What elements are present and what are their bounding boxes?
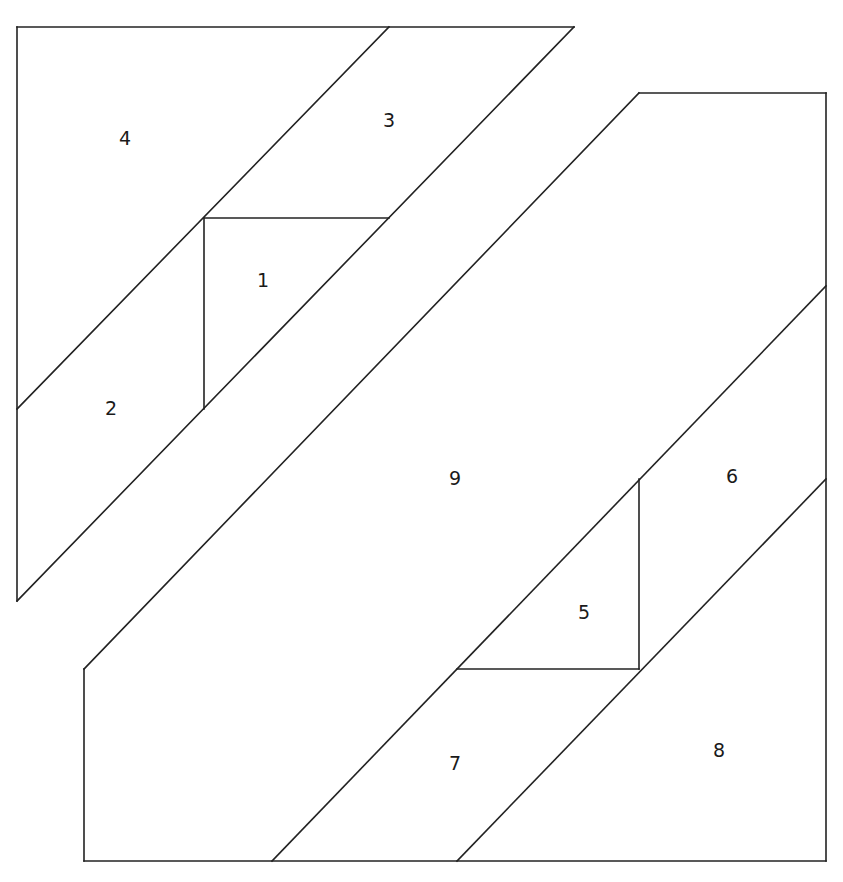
- paper-piecing-diagram: 123456789: [0, 0, 843, 882]
- pieces-layer: [17, 27, 826, 861]
- piece-label-8: 8: [713, 739, 725, 761]
- piece-label-9: 9: [449, 467, 461, 489]
- piece-label-5: 5: [578, 601, 590, 623]
- piece-label-2: 2: [105, 397, 117, 419]
- piece-label-3: 3: [383, 109, 395, 131]
- piece-label-1: 1: [257, 269, 269, 291]
- piece-label-7: 7: [449, 752, 461, 774]
- piece-label-4: 4: [119, 127, 131, 149]
- piece-label-6: 6: [726, 465, 738, 487]
